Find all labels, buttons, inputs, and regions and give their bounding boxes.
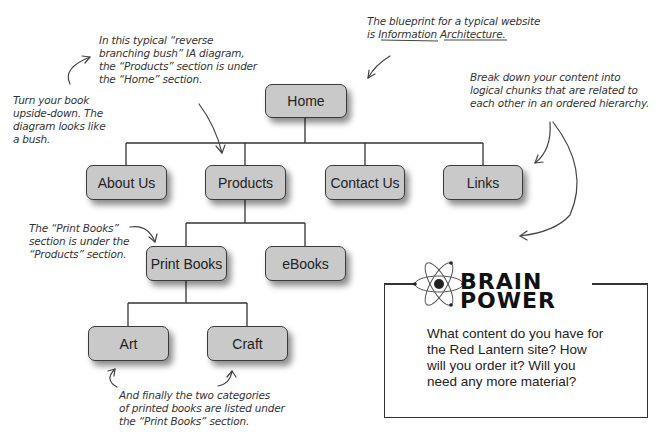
- node-label: Print Books: [151, 256, 223, 272]
- node-label: Art: [120, 336, 138, 352]
- note-upside-down: Turn your book upside-down. The diagram …: [13, 94, 105, 146]
- node-label: Home: [287, 93, 324, 109]
- note-blueprint: The blueprint for a typical website is I…: [367, 15, 540, 41]
- node-craft: Craft: [207, 326, 288, 361]
- note-final: And finally the two categories of printe…: [119, 389, 285, 428]
- node-art: Art: [88, 326, 169, 361]
- brain-power-text: What content do you have for the Red Lan…: [427, 326, 637, 390]
- node-links: Links: [443, 165, 523, 200]
- note-reverse-bush: In this typical “reverse branching bush”…: [99, 34, 257, 86]
- node-label: Links: [467, 175, 500, 191]
- node-ebooks: eBooks: [265, 246, 346, 281]
- brain-power-title-line2: POWER: [460, 291, 556, 311]
- node-label: Craft: [232, 336, 262, 352]
- note-break-down: Break down your content into logical chu…: [470, 71, 649, 110]
- node-about-us: About Us: [86, 165, 167, 200]
- brain-power-top-right-border: [592, 283, 648, 285]
- note-print-books: The “Print Books” section is under the “…: [29, 222, 129, 261]
- node-label: Products: [218, 175, 273, 191]
- node-products: Products: [205, 165, 286, 200]
- node-print-books: Print Books: [146, 246, 227, 281]
- node-label: eBooks: [282, 256, 329, 272]
- node-home: Home: [265, 84, 347, 118]
- node-label: Contact Us: [330, 175, 399, 191]
- node-label: About Us: [98, 175, 156, 191]
- brain-power-top-left-border: [384, 283, 414, 285]
- node-contact-us: Contact Us: [325, 165, 405, 200]
